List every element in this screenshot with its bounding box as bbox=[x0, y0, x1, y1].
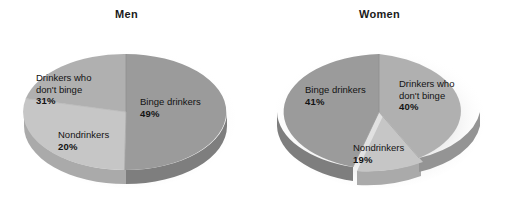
label-percent: 49% bbox=[140, 108, 201, 120]
pie-label-binge-drinkers: Binge drinkers 49% bbox=[140, 96, 201, 119]
pie-stage-women: Binge drinkers 41% Drinkers who don't bi… bbox=[253, 0, 506, 203]
label-line-2: don't binge bbox=[36, 84, 91, 96]
label-percent: 41% bbox=[305, 96, 366, 108]
label-line-1: Nondrinkers bbox=[58, 129, 109, 141]
chart-panel-men: Men bbox=[0, 0, 253, 203]
label-line-1: Drinkers who bbox=[399, 78, 454, 90]
pie-label-nondrinkers: Nondrinkers 19% bbox=[353, 142, 404, 165]
pie-label-drinkers-dont-binge: Drinkers who don't binge 31% bbox=[36, 72, 91, 107]
pie-stage-men: Drinkers who don't binge 31% Nondrinkers… bbox=[0, 0, 253, 203]
label-line-1: Nondrinkers bbox=[353, 142, 404, 154]
pie-label-binge-drinkers: Binge drinkers 41% bbox=[305, 84, 366, 107]
label-percent: 31% bbox=[36, 95, 91, 107]
pie-chart-women bbox=[253, 0, 506, 203]
pie-label-nondrinkers: Nondrinkers 20% bbox=[58, 129, 109, 152]
chart-panel-women: Women bbox=[253, 0, 506, 203]
label-percent: 20% bbox=[58, 141, 109, 153]
label-percent: 19% bbox=[353, 154, 404, 166]
label-percent: 40% bbox=[399, 101, 454, 113]
pie-chart-figure: Men bbox=[0, 0, 506, 203]
label-line-1: Binge drinkers bbox=[140, 96, 201, 108]
pie-label-drinkers-dont-binge: Drinkers who don't binge 40% bbox=[399, 78, 454, 113]
label-line-1: Binge drinkers bbox=[305, 84, 366, 96]
label-line-1: Drinkers who bbox=[36, 72, 91, 84]
label-line-2: don't binge bbox=[399, 90, 454, 102]
